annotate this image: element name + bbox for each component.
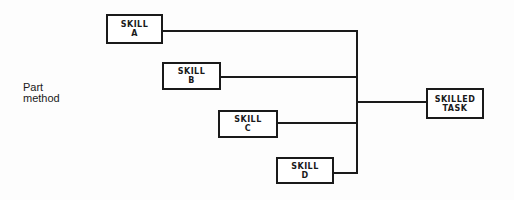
skill-d-line2: D xyxy=(301,171,308,180)
skilled-task-line1: SKILLED xyxy=(435,95,476,104)
skill-c-line1: SKILL xyxy=(234,115,262,124)
connector-b xyxy=(220,76,358,78)
connector-a xyxy=(162,30,358,32)
connector-c xyxy=(277,122,358,124)
skilled-task-box: SKILLED TASK xyxy=(426,88,484,119)
skill-d-box: SKILL D xyxy=(276,157,334,184)
skilled-task-line2: TASK xyxy=(443,104,468,113)
skill-b-box: SKILL B xyxy=(162,62,221,90)
part-method-diagram: Part method SKILL A SKILL B SKILL C SKIL… xyxy=(0,0,514,200)
skill-c-line2: C xyxy=(245,124,251,133)
skill-a-box: SKILL A xyxy=(106,14,163,44)
connector-to-task xyxy=(357,101,426,103)
skill-b-line1: SKILL xyxy=(178,67,206,76)
skill-a-line2: A xyxy=(131,29,138,38)
label-line-2: method xyxy=(23,93,60,104)
skill-c-box: SKILL C xyxy=(218,110,278,138)
part-method-label: Part method xyxy=(23,82,60,104)
skill-a-line1: SKILL xyxy=(121,20,149,29)
skill-d-line1: SKILL xyxy=(291,162,319,171)
connector-d xyxy=(333,172,358,174)
skill-b-line2: B xyxy=(188,76,195,85)
